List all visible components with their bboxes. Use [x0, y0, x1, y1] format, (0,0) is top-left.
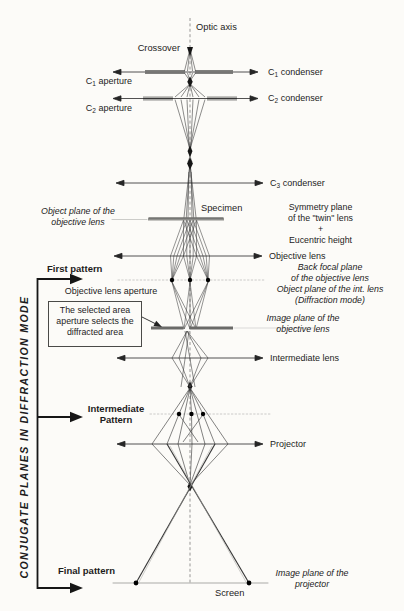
- c2-lens-arrow: [113, 96, 258, 101]
- image-plane-objective-label: Image plane of the objective lens: [260, 313, 346, 335]
- c1-lens-arrow: [113, 69, 258, 74]
- final-pattern-label: Final pattern: [58, 565, 115, 576]
- crossover-label: Crossover: [118, 43, 180, 54]
- c1-aperture-label: C1 aperture: [60, 76, 132, 89]
- c2-aperture-rest: aperture: [96, 103, 132, 113]
- optic-axis-label: Optic axis: [196, 22, 237, 33]
- c3-condenser-rest: condenser: [280, 178, 325, 188]
- intermediate-lens-label: Intermediate lens: [270, 353, 339, 364]
- screen-rays: [136, 444, 249, 583]
- c1-condenser-label: C1 condenser: [268, 67, 323, 80]
- c3-condenser-label: C3 condenser: [270, 178, 325, 191]
- back-focal-plane-label: Back focal plane of the objective lens O…: [262, 262, 398, 306]
- note-box-pointer-arrow: [142, 317, 162, 327]
- specimen-bar: [148, 218, 224, 219]
- objective-lens-aperture-label: Objective lens aperture: [55, 286, 167, 297]
- tem-diffraction-diagram: Optic axis Crossover C1 aperture C2 aper…: [0, 0, 404, 611]
- c2-aperture-label: C2 aperture: [60, 103, 132, 116]
- selected-area-note-box: The selected area aperture selects the d…: [48, 301, 142, 347]
- c1-condenser-rest: condenser: [278, 67, 323, 77]
- objective-lens-label: Objective lens: [269, 251, 326, 262]
- bfp-to-image-rays: [172, 282, 208, 329]
- c1-aperture-rest: aperture: [96, 76, 132, 86]
- specimen-label: Specimen: [201, 203, 242, 214]
- intermediate-pattern-label: Intermediate Pattern: [84, 403, 148, 425]
- c2-condenser-rest: condenser: [278, 93, 323, 103]
- objective-lens-arrow: [114, 253, 262, 258]
- first-pattern-label: First pattern: [47, 263, 102, 274]
- sidebar-title: CONJUGATE PLANES IN DIFFRACTION MODE: [18, 272, 30, 602]
- projector-label: Projector: [270, 439, 306, 450]
- screen-label: Screen: [215, 588, 244, 599]
- c2-condenser-label: C2 condenser: [268, 93, 323, 106]
- object-plane-objective-label: Object plane of the objective lens: [30, 206, 126, 228]
- objective-diffraction-rays: [171, 220, 210, 280]
- c3-lens-arrow: [116, 180, 263, 185]
- image-plane-projector-label: Image plane of the projector: [268, 568, 356, 590]
- intermediate-pattern-dots: [177, 412, 205, 416]
- symmetry-plane-label: Symmetry plane of the "twin" lens + Euce…: [272, 202, 369, 246]
